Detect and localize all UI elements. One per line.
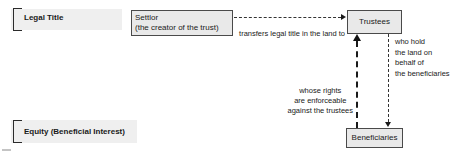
equity-label: Equity (Beneficial Interest) (24, 127, 125, 136)
beneficiaries-trustees-dashed-line (356, 41, 358, 128)
settlor-box: Settlor (the creator of the trust) (131, 10, 233, 36)
left-bracket-icon (13, 8, 22, 31)
trustees-box: Trustees (347, 10, 402, 34)
arrowhead-right-icon (341, 14, 346, 20)
arrowhead-down-icon (385, 122, 391, 127)
scan-artifact-mark (2, 149, 11, 151)
arrowhead-up-icon (353, 34, 361, 41)
enforce-edge-label: whose rights are enforceable against the… (288, 86, 353, 116)
settlor-title: Settlor (135, 13, 229, 23)
trustees-title: Trustees (359, 17, 390, 27)
beneficiaries-box: Beneficiaries (346, 128, 403, 148)
settlor-trustees-dashed-line (234, 17, 341, 18)
legal-title-label: Legal Title (24, 13, 63, 22)
transfer-edge-label: transfers legal title in the land to (239, 29, 345, 40)
hold-edge-label: who hold the land on behalf of the benef… (395, 37, 450, 79)
trustees-beneficiaries-dashed-line (388, 34, 389, 122)
left-bracket-icon (13, 120, 22, 143)
trust-diagram: Legal Title Equity (Beneficial Interest)… (0, 0, 463, 157)
beneficiaries-title: Beneficiaries (352, 133, 398, 143)
settlor-subtitle: (the creator of the trust) (135, 23, 229, 33)
